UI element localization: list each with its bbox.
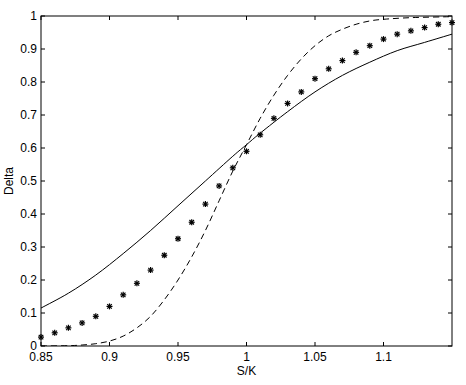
asterisk-marker bbox=[189, 219, 195, 225]
asterisk-marker bbox=[216, 183, 222, 189]
y-tick-label: 0.7 bbox=[20, 108, 37, 122]
y-tick-label: 0.2 bbox=[20, 273, 37, 287]
asterisk-marker bbox=[422, 25, 428, 31]
asterisk-marker bbox=[353, 49, 359, 55]
x-axis-label: S/K bbox=[237, 364, 256, 378]
asterisk-marker bbox=[230, 165, 236, 171]
asterisk-marker bbox=[271, 115, 277, 121]
asterisk-marker bbox=[312, 76, 318, 82]
y-tick-label: 0 bbox=[30, 339, 37, 353]
y-tick-label: 1 bbox=[30, 9, 37, 23]
asterisk-marker bbox=[52, 330, 58, 336]
asterisk-marker bbox=[148, 267, 154, 273]
asterisk-marker bbox=[298, 89, 304, 95]
x-tick-label: 1 bbox=[243, 350, 250, 364]
asterisk-marker bbox=[367, 43, 373, 49]
asterisk-marker bbox=[326, 66, 332, 72]
y-tick-label: 0.8 bbox=[20, 75, 37, 89]
asterisk-marker bbox=[202, 201, 208, 207]
asterisk-marker bbox=[257, 132, 263, 138]
x-tick-label: 1.05 bbox=[303, 350, 327, 364]
asterisk-marker bbox=[107, 303, 113, 309]
delta-chart: 0.850.90.9511.051.1 00.10.20.30.40.50.60… bbox=[0, 0, 466, 385]
y-tick-label: 0.3 bbox=[20, 240, 37, 254]
asterisk-marker bbox=[285, 100, 291, 106]
x-tick-label: 1.1 bbox=[375, 350, 392, 364]
y-tick-label: 0.6 bbox=[20, 141, 37, 155]
asterisk-marker bbox=[120, 292, 126, 298]
asterisk-marker bbox=[161, 252, 167, 258]
asterisk-marker bbox=[244, 148, 250, 154]
x-tick-label: 0.9 bbox=[101, 350, 118, 364]
asterisk-marker bbox=[134, 280, 140, 286]
y-tick-label: 0.1 bbox=[20, 306, 37, 320]
asterisk-marker bbox=[394, 31, 400, 37]
asterisk-marker bbox=[65, 325, 71, 331]
asterisk-marker bbox=[93, 313, 99, 319]
asterisk-marker bbox=[339, 58, 345, 64]
x-tick-label: 0.95 bbox=[166, 350, 190, 364]
asterisk-marker bbox=[79, 320, 85, 326]
asterisk-marker bbox=[408, 28, 414, 34]
y-tick-label: 0.9 bbox=[20, 42, 37, 56]
asterisk-marker bbox=[435, 21, 441, 27]
asterisk-marker bbox=[175, 236, 181, 242]
asterisk-marker bbox=[381, 36, 387, 42]
y-tick-label: 0.5 bbox=[20, 174, 37, 188]
y-axis-label: Delta bbox=[2, 167, 16, 195]
y-tick-label: 0.4 bbox=[20, 207, 37, 221]
